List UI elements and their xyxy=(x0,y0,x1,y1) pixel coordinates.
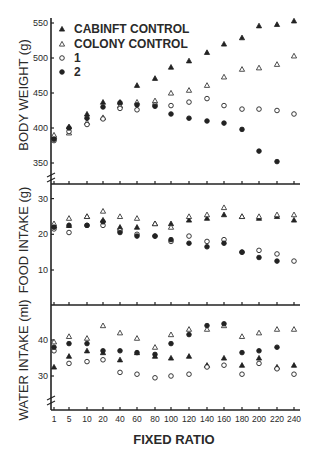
data-point xyxy=(168,355,173,360)
data-point xyxy=(239,214,244,219)
xlabel: FIXED RATIO xyxy=(133,432,214,447)
data-point xyxy=(222,103,227,108)
legend-label-1: 1 xyxy=(74,51,81,65)
x-tick-label: 140 xyxy=(200,414,214,424)
x-tick-label: 80 xyxy=(150,414,160,424)
data-point xyxy=(239,363,244,368)
x-tick-label: 240 xyxy=(287,414,301,424)
data-point xyxy=(84,348,89,353)
data-point xyxy=(291,18,296,23)
data-point xyxy=(67,361,72,366)
data-point xyxy=(256,23,261,28)
data-point xyxy=(239,67,244,72)
data-point xyxy=(240,372,245,377)
data-point xyxy=(222,322,227,327)
data-point xyxy=(66,334,71,339)
data-point xyxy=(152,221,157,226)
legend-label-2: 2 xyxy=(74,65,81,79)
data-point xyxy=(118,370,123,375)
ylabel-body-weight: BODY WEIGHT (g) xyxy=(16,39,31,150)
data-point xyxy=(256,355,261,360)
data-point xyxy=(52,225,57,230)
data-point xyxy=(101,220,106,225)
data-point xyxy=(67,223,72,228)
y-tick-label: 500 xyxy=(33,53,48,63)
legend-marker-3 xyxy=(60,70,65,75)
data-point xyxy=(204,50,209,55)
data-point xyxy=(85,223,90,228)
data-point xyxy=(257,248,262,253)
data-point xyxy=(187,116,192,121)
data-point xyxy=(275,108,280,113)
data-point xyxy=(221,74,226,79)
data-point xyxy=(275,367,280,372)
data-point xyxy=(221,41,226,46)
data-point xyxy=(135,372,140,377)
y-tick-label: 30 xyxy=(38,371,48,381)
data-point xyxy=(257,255,262,260)
legend: CABINFT CONTROL COLONY CONTROL 1 2 xyxy=(59,22,189,79)
data-point xyxy=(222,121,227,126)
data-point xyxy=(153,104,158,109)
data-point xyxy=(275,259,280,264)
x-tick-label: 1 xyxy=(52,414,57,424)
y-tick-label: 20 xyxy=(38,229,48,239)
data-point xyxy=(117,330,122,335)
data-point xyxy=(205,96,210,101)
data-point xyxy=(169,374,174,379)
data-point xyxy=(85,359,90,364)
data-point xyxy=(101,349,106,354)
data-point xyxy=(168,65,173,70)
y-tick-label: 400 xyxy=(33,123,48,133)
data-point xyxy=(187,332,192,337)
data-point xyxy=(52,345,57,350)
data-point xyxy=(205,119,210,124)
data-point xyxy=(118,230,123,235)
data-point xyxy=(169,103,174,108)
data-point xyxy=(291,327,296,332)
data-point xyxy=(66,216,71,221)
data-point xyxy=(186,327,191,332)
data-point xyxy=(204,212,209,217)
data-point xyxy=(221,212,226,217)
data-point xyxy=(169,112,174,117)
data-point xyxy=(51,364,56,369)
data-point xyxy=(117,214,122,219)
data-point xyxy=(186,58,191,63)
data-point xyxy=(153,234,158,239)
data-point xyxy=(85,341,90,346)
data-point xyxy=(134,336,139,341)
x-tick-label: 160 xyxy=(217,414,231,424)
data-point xyxy=(85,122,90,127)
data-point xyxy=(134,216,139,221)
data-point xyxy=(100,323,105,328)
data-point xyxy=(187,100,192,105)
data-point xyxy=(186,88,191,93)
data-point xyxy=(135,350,140,355)
data-point xyxy=(134,225,139,230)
data-point xyxy=(101,358,106,363)
data-point xyxy=(291,363,296,368)
data-point xyxy=(135,108,140,113)
data-point xyxy=(168,332,173,337)
data-point xyxy=(66,354,71,359)
data-point xyxy=(134,83,139,88)
data-point xyxy=(169,341,174,346)
data-point xyxy=(257,349,262,354)
data-point xyxy=(52,137,57,142)
data-point xyxy=(101,105,106,110)
data-point xyxy=(186,214,191,219)
data-point xyxy=(292,259,297,264)
ylabel-food-intake: FOOD INTAKE (g) xyxy=(16,187,31,294)
x-tick-label: 10 xyxy=(82,414,92,424)
y-tick-label: 450 xyxy=(33,88,48,98)
data-point xyxy=(240,127,245,132)
data-point xyxy=(153,352,158,357)
y-tick-label: 40 xyxy=(38,335,48,345)
data-point xyxy=(257,107,262,112)
data-point xyxy=(117,357,122,362)
data-point xyxy=(153,376,158,381)
data-point xyxy=(67,341,72,346)
data-point xyxy=(101,117,106,122)
data-point xyxy=(256,65,261,70)
